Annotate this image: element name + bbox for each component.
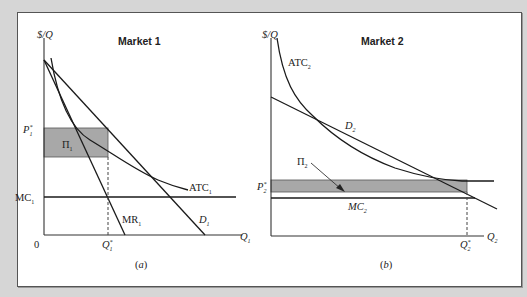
atc2-label: ATC2	[288, 57, 311, 70]
panel-a-title: Market 1	[118, 35, 161, 47]
atc1-label: ATC1	[189, 182, 212, 195]
atc1-curve	[51, 58, 188, 190]
mc1-label: MC1	[15, 192, 34, 205]
demand-label-1: D1	[198, 214, 210, 227]
price-label-1: P*1	[22, 124, 32, 137]
caption-a: (a)	[135, 259, 148, 271]
profit-area-1	[44, 128, 108, 157]
y-axis-label-a: $/Q	[37, 29, 53, 40]
market-diagrams: Market 1 $/Q P*1 Π1 MC1 ATC1 MR1 D1 0 Q*…	[0, 0, 527, 297]
quantity-label-2: Q*2	[460, 239, 471, 252]
panel-b-market-2: Market 2 $/Q ATC2 D2 Π2 P*2 MC2 Q*2 Q2 (…	[256, 29, 498, 271]
atc2-curve	[277, 38, 494, 181]
price-label-2: P*2	[256, 181, 266, 194]
panel-a-market-1: Market 1 $/Q P*1 Π1 MC1 ATC1 MR1 D1 0 Q*…	[15, 29, 251, 271]
profit-area-2	[271, 180, 467, 192]
x-axis-label-b: Q2	[487, 231, 498, 244]
caption-b: (b)	[380, 259, 393, 271]
y-axis-label-b: $/Q	[262, 29, 278, 40]
mr1-label: MR1	[122, 214, 141, 227]
profit-label-2: Π2	[297, 156, 308, 169]
mc2-label: MC2	[347, 201, 367, 214]
quantity-label-1: Q*1	[102, 239, 113, 252]
x-axis-label-a: Q1	[240, 231, 251, 244]
origin-label: 0	[34, 239, 39, 250]
panel-b-title: Market 2	[361, 35, 404, 47]
demand-label-2: D2	[344, 120, 356, 133]
